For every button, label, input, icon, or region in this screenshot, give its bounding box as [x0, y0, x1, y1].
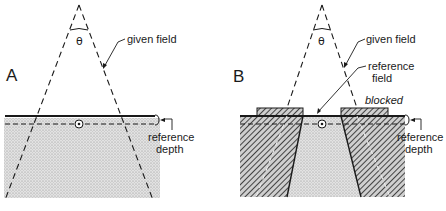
- panel-letter-b: B: [233, 67, 244, 86]
- theta-label-a: θ: [76, 35, 83, 48]
- angle-arc-a: [70, 29, 88, 31]
- figure-canvas: θ given field A reference depth: [0, 0, 446, 211]
- reference-depth-label-b1: reference: [397, 131, 443, 143]
- given-field-label-b: given field: [366, 33, 416, 45]
- reference-field-label-b1: reference: [368, 60, 414, 72]
- reference-depth-label-b2: depth: [405, 143, 433, 155]
- block-left-b: [257, 108, 303, 116]
- panel-a: θ given field A reference depth: [4, 5, 194, 200]
- blocked-label-b: blocked: [365, 94, 404, 106]
- panel-letter-a: A: [6, 66, 18, 85]
- panel-b: θ given field reference field blocked B …: [233, 5, 443, 197]
- depth-brace-b: [405, 115, 409, 125]
- theta-label-b: θ: [318, 35, 325, 48]
- reference-depth-label-a1: reference: [148, 131, 194, 143]
- reference-field-label-b2: field: [372, 72, 392, 84]
- beam-edge-left-b: [287, 5, 322, 108]
- beam-edge-right-b: [322, 5, 357, 108]
- block-right-b: [341, 108, 388, 116]
- given-field-label-a: given field: [127, 33, 177, 45]
- reference-depth-label-a2: depth: [156, 143, 184, 155]
- angle-arc-b: [313, 29, 331, 31]
